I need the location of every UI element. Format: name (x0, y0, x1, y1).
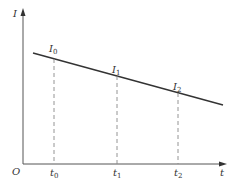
origin-label: O (12, 166, 20, 177)
diagram-canvas: I t O I0 I1 I2 t0 t1 t2 (0, 0, 234, 188)
x-axis-label: t (220, 167, 225, 178)
value-label-i0: I0 (48, 43, 57, 56)
y-axis-arrow-icon (21, 8, 26, 16)
x-axis-arrow-icon (219, 162, 227, 167)
time-label-t2: t2 (174, 167, 183, 180)
time-label-t0: t0 (50, 167, 59, 180)
time-label-t1: t1 (113, 167, 122, 180)
y-axis-label: I (12, 8, 18, 19)
current-line (33, 53, 223, 105)
